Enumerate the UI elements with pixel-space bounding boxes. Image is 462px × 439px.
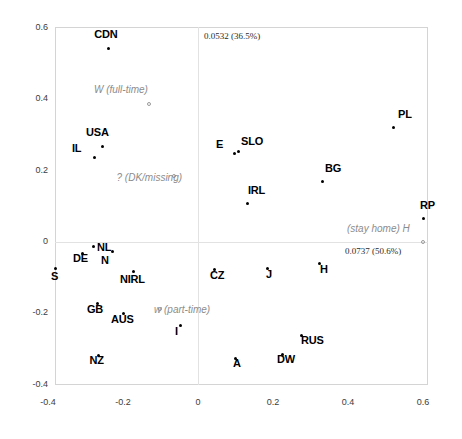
x-tick-0: 0 (178, 397, 218, 407)
data-point-i[interactable] (179, 324, 182, 327)
dimension2-inertia-label: 0.0532 (36.5%) (204, 31, 260, 41)
point-label-cz: CZ (210, 269, 224, 281)
data-point-n[interactable] (111, 250, 114, 253)
point-label-n: N (101, 254, 109, 266)
supplementary-point-w-full-time[interactable] (147, 102, 151, 106)
plot-area (55, 27, 428, 385)
x-tick-neg0p4: -0.4 (28, 397, 68, 407)
point-label-cdn: CDN (94, 28, 117, 40)
x-tick-neg0p2: -0.2 (103, 397, 143, 407)
point-label-aus: AUS (111, 313, 134, 325)
point-label-a: A (233, 357, 241, 369)
point-label-il: IL (72, 142, 81, 154)
supplementary-label-dk-missing: ? (DK/missing) (116, 172, 182, 183)
point-label-bg: BG (325, 162, 341, 174)
data-point-cdn[interactable] (107, 47, 110, 50)
point-label-gb: GB (87, 303, 103, 315)
supplementary-label-w-full-time: W (full-time) (94, 84, 148, 95)
point-label-rus: RUS (301, 334, 324, 346)
point-label-de: DE (73, 252, 88, 264)
y-tick-0p2: 0.2 (8, 165, 48, 175)
y-tick-neg0p4: -0.4 (8, 379, 48, 389)
y-tick-0: 0 (8, 236, 48, 246)
dimension1-inertia-label: 0.0737 (50.6%) (345, 246, 401, 256)
point-label-nirl: NIRL (120, 273, 145, 285)
point-label-slo: SLO (241, 135, 263, 147)
point-label-rp: RP (420, 199, 435, 211)
point-label-dw: DW (277, 353, 295, 365)
supplementary-label-w-part-time: w (part-time) (154, 304, 210, 315)
point-label-e: E (216, 138, 223, 150)
y-tick-0p6: 0.6 (8, 22, 48, 32)
x-tick-0p2: 0.2 (253, 397, 293, 407)
point-label-usa: USA (86, 126, 109, 138)
point-label-nz: NZ (90, 354, 104, 366)
vertical-zero-axis (198, 27, 199, 385)
point-label-j: J (266, 268, 272, 280)
x-tick-0p6: 0.6 (403, 397, 443, 407)
point-label-h: H (320, 263, 328, 275)
x-tick-0p4: 0.4 (328, 397, 368, 407)
point-label-i: I (175, 325, 178, 337)
point-label-pl: PL (398, 108, 412, 120)
y-tick-neg0p2: -0.2 (8, 307, 48, 317)
point-label-nl: NL (97, 241, 111, 253)
y-tick-0p4: 0.4 (8, 93, 48, 103)
point-label-irl: IRL (248, 184, 265, 196)
supplementary-label-stay-home-h: (stay home) H (347, 223, 410, 234)
correspondence-analysis-scatter-plot: 0.60.40.20-0.2-0.4 -0.4-0.200.20.40.6 0.… (0, 0, 462, 439)
point-label-s: S (51, 270, 58, 282)
